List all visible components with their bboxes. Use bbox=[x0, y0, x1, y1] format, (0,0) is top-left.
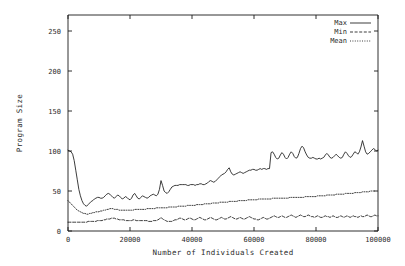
y-tick-label: 250 bbox=[48, 28, 61, 36]
y-tick-label: 0 bbox=[57, 228, 61, 236]
x-tick-label: 80000 bbox=[305, 236, 326, 244]
x-axis-title: Number of Individuals Created bbox=[152, 248, 293, 257]
legend-label-max: Max bbox=[334, 19, 347, 27]
y-tick-label: 50 bbox=[53, 188, 61, 196]
x-tick-label: 0 bbox=[66, 236, 70, 244]
x-tick-label: 100000 bbox=[365, 236, 390, 244]
x-tick-label: 60000 bbox=[243, 236, 264, 244]
chart-page: 0501001502002500200004000060000800001000… bbox=[0, 0, 405, 266]
x-tick-label: 40000 bbox=[181, 236, 202, 244]
y-tick-label: 100 bbox=[48, 148, 61, 156]
x-tick-label: 20000 bbox=[119, 236, 140, 244]
legend-label-min: Min bbox=[334, 28, 347, 36]
y-tick-label: 200 bbox=[48, 68, 61, 76]
y-tick-label: 150 bbox=[48, 108, 61, 116]
y-axis-title: Program Size bbox=[15, 94, 24, 153]
legend-label-mean: Mean bbox=[330, 37, 347, 45]
line-chart: 0501001502002500200004000060000800001000… bbox=[0, 0, 405, 266]
